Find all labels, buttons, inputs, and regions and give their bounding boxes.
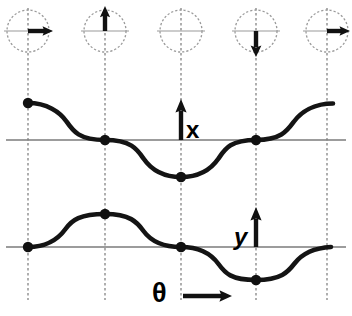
vertical-gridlines	[28, 8, 327, 300]
right-arrow	[327, 26, 350, 36]
phasor-180	[157, 10, 205, 52]
phasor-0	[4, 10, 53, 52]
down-arrow	[251, 31, 262, 57]
data-point	[251, 135, 261, 145]
sine-plot	[6, 207, 346, 285]
y-axis-label: y	[234, 225, 247, 249]
cosine-plot	[6, 98, 346, 182]
phasor-360	[303, 10, 350, 52]
x-axis-arrow-annotation	[175, 99, 186, 140]
data-point	[100, 135, 110, 145]
data-point	[176, 242, 186, 252]
data-point	[251, 275, 261, 285]
x-axis-label: x	[186, 118, 199, 142]
figure-canvas	[0, 0, 352, 316]
data-point	[23, 242, 33, 252]
data-point	[176, 172, 186, 182]
theta-direction-arrow	[183, 290, 232, 302]
theta-label: θ	[152, 280, 167, 307]
phasor-sine-cosine-figure: x y θ	[0, 0, 352, 316]
data-point	[100, 209, 110, 219]
phasor-270	[232, 10, 280, 57]
phasor-row	[4, 6, 350, 57]
y-axis-arrow-annotation	[250, 207, 261, 247]
data-point	[23, 98, 33, 108]
